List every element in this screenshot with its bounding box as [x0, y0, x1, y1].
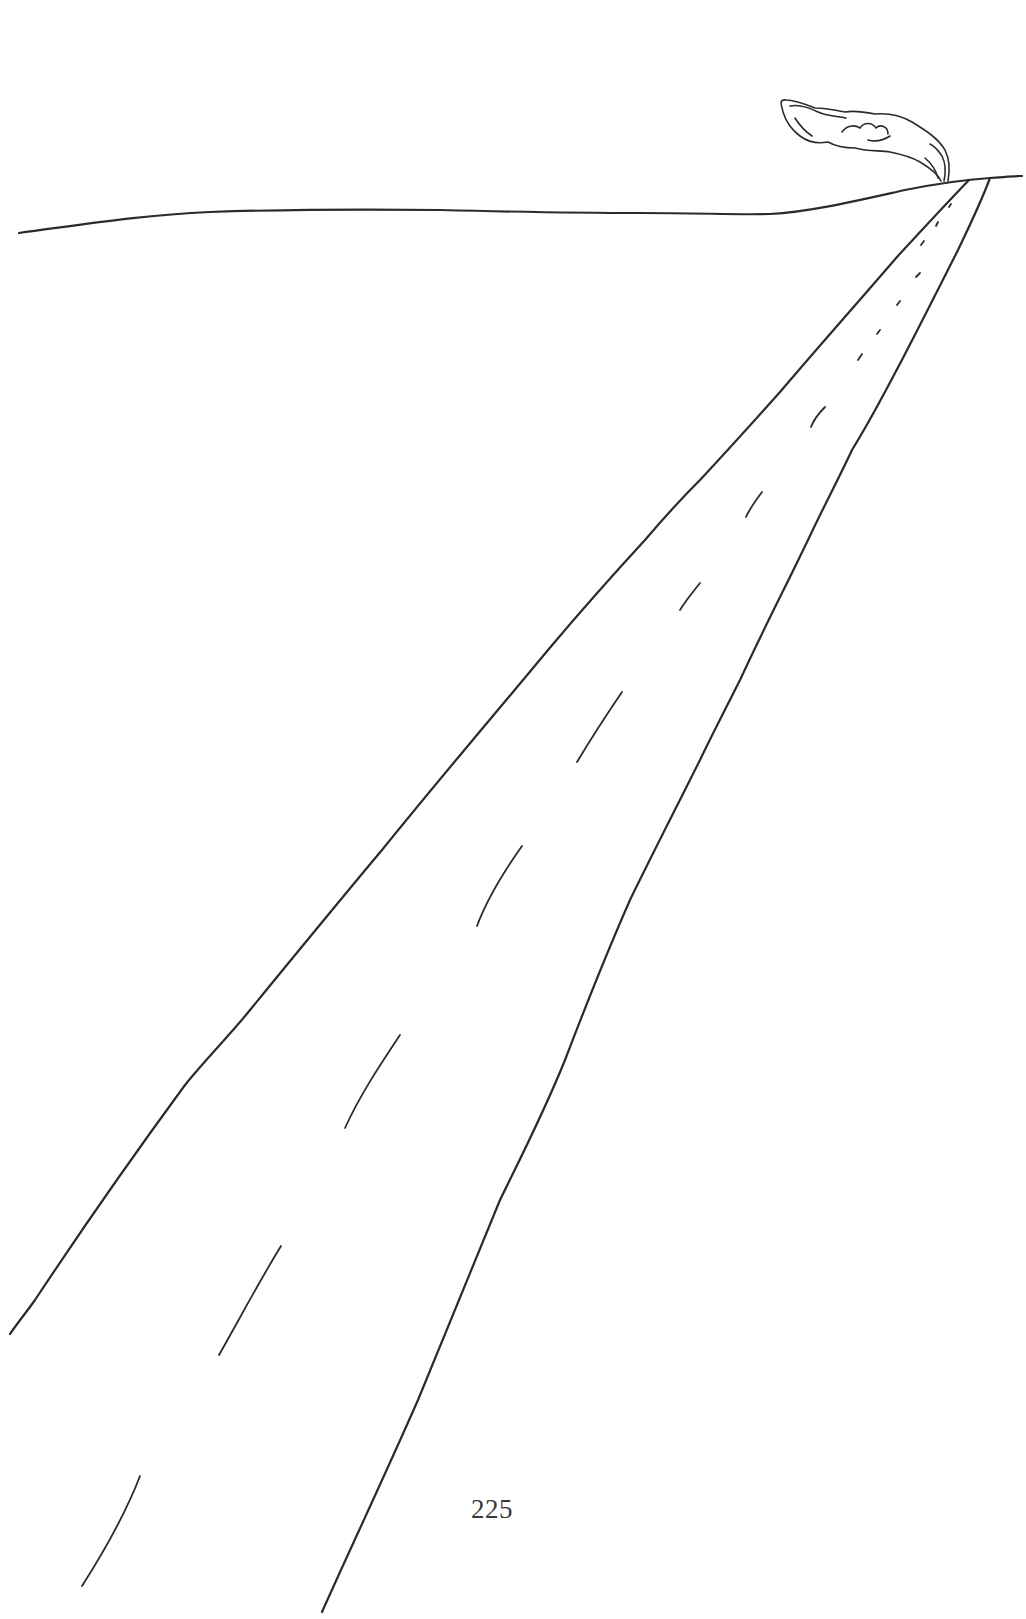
center-dash [577, 692, 622, 762]
center-dash [921, 241, 924, 245]
horizon-line [19, 176, 1022, 233]
page-number-text: 225 [471, 1494, 513, 1525]
road-left-edge [10, 180, 969, 1334]
smoke-inner-curl [842, 124, 888, 135]
road-right-edge [322, 178, 990, 1612]
center-dash [345, 1035, 400, 1128]
road-illustration [0, 0, 1026, 1619]
center-dash [680, 583, 700, 610]
book-page: 225 [0, 0, 1026, 1619]
center-dash [897, 301, 900, 305]
center-dash [858, 354, 862, 360]
center-dash [877, 330, 880, 334]
center-dash [477, 846, 522, 926]
smoke-inner-curl [868, 136, 890, 141]
center-dash [219, 1246, 281, 1355]
center-dash [811, 407, 825, 427]
smoke-plume [781, 100, 949, 181]
center-dash [949, 204, 951, 207]
road-center-dashes [82, 204, 951, 1586]
smoke-outline [781, 100, 949, 181]
center-dash [82, 1476, 140, 1586]
page-number: 225 [0, 1494, 1026, 1525]
center-dash [936, 222, 938, 226]
center-dash [746, 492, 762, 517]
center-dash [916, 273, 920, 277]
